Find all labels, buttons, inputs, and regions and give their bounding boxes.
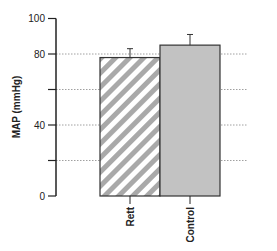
- x-category-label: Rett: [125, 206, 136, 226]
- x-axis-categories: RettControl: [125, 196, 196, 243]
- bar-control: [160, 45, 220, 196]
- bar-chart: 04080100 RettControl MAP (mmHg): [0, 0, 277, 251]
- y-tick-label: 80: [34, 49, 46, 60]
- y-axis-label: MAP (mmHg): [11, 76, 22, 139]
- bars: [100, 45, 220, 196]
- y-tick-label: 0: [39, 191, 45, 202]
- x-category-label: Control: [185, 207, 196, 243]
- y-axis: 04080100: [28, 13, 56, 202]
- y-tick-label: 40: [34, 120, 46, 131]
- bar-rett: [100, 58, 160, 196]
- y-tick-label: 100: [28, 13, 45, 24]
